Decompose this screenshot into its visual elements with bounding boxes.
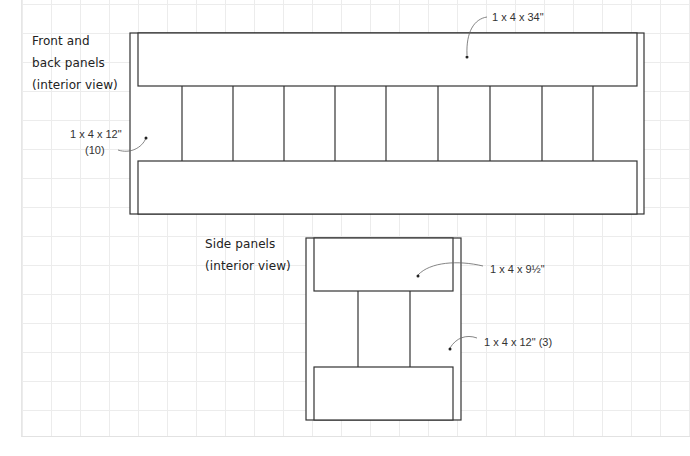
side-slat-dimension-label: 1 x 4 x 12" (3) [484, 336, 552, 348]
side-panel-drawing [306, 238, 461, 420]
arrowhead-icon [466, 56, 469, 59]
front-slat-dimension-label: 1 x 4 x 12" [70, 128, 122, 140]
front-panel-drawing [130, 33, 644, 214]
side-rail-dimension-label: 1 x 4 x 9½" [490, 263, 545, 275]
front-panel-title-line-3: (interior view) [32, 78, 118, 92]
front-slat-count-label: (10) [85, 144, 105, 156]
front-panel-title-line-1: Front and [32, 34, 90, 48]
side-panel-top-rail [314, 238, 453, 291]
arrowhead-icon [449, 348, 452, 351]
arrowhead-icon [145, 137, 148, 140]
arrowhead-icon [417, 275, 420, 278]
side-panel-title-line-2: (interior view) [205, 259, 291, 273]
side-panel-title-line-1: Side panels [205, 237, 275, 251]
side-panel-bottom-rail [314, 367, 453, 420]
front-panel-title-line-2: back panels [32, 56, 105, 70]
front-rail-dimension-label: 1 x 4 x 34" [492, 11, 544, 23]
front-panel-bottom-rail [138, 161, 637, 214]
front-panel-top-rail [138, 33, 637, 86]
